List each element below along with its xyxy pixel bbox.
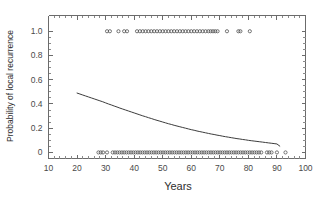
chart-figure: 102030405060708090100 00.20.40.60.81.0 Y… (0, 0, 330, 197)
x-tick-label: 70 (215, 163, 225, 173)
probability-curve-path (77, 93, 280, 146)
x-tick-label: 90 (272, 163, 282, 173)
y-axis-title: Probability of local recurrence (5, 30, 15, 142)
x-tick-label: 50 (158, 163, 168, 173)
data-point-marker (260, 151, 263, 154)
y-tick-label: 0.4 (31, 99, 43, 109)
x-tick-label: 80 (244, 163, 254, 173)
data-point-marker (216, 30, 219, 33)
fitted-probability-curve (77, 93, 280, 146)
data-point-marker (117, 30, 120, 33)
x-axis-ticks (49, 16, 306, 159)
data-point-marker (248, 30, 251, 33)
data-point-marker (239, 30, 242, 33)
plot-frame (49, 16, 306, 159)
data-point-marker (105, 151, 108, 154)
x-axis-title: Years (164, 180, 192, 192)
x-tick-label: 60 (187, 163, 197, 173)
x-tick-label: 10 (44, 163, 54, 173)
y-axis-tick-labels: 00.20.40.60.81.0 (31, 26, 43, 157)
recurrence-marker-row (105, 30, 251, 33)
y-tick-label: 0.6 (31, 75, 43, 85)
x-axis-tick-labels: 102030405060708090100 (44, 163, 313, 173)
x-tick-label: 30 (101, 163, 111, 173)
data-point-marker (275, 151, 278, 154)
y-tick-label: 0.2 (31, 123, 43, 133)
y-tick-label: 0 (38, 147, 43, 157)
no-recurrence-marker-row (97, 151, 287, 154)
x-tick-label: 100 (298, 163, 312, 173)
x-tick-label: 20 (72, 163, 82, 173)
y-tick-label: 1.0 (31, 26, 43, 36)
x-tick-label: 40 (129, 163, 139, 173)
y-tick-label: 0.8 (31, 50, 43, 60)
data-point-marker (101, 151, 104, 154)
data-point-marker (270, 151, 273, 154)
recurrence-probability-chart: 102030405060708090100 00.20.40.60.81.0 Y… (0, 0, 330, 197)
data-point-marker (225, 30, 228, 33)
data-point-marker (284, 151, 287, 154)
y-axis-ticks (49, 31, 306, 152)
